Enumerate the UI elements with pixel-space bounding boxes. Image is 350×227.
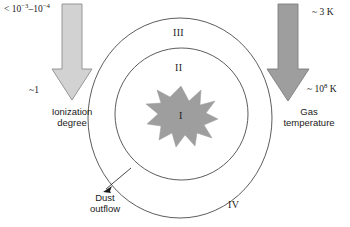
ionization-degree-top-value: < 10−3–10−4 xyxy=(4,4,50,15)
ionization-degree-arrow xyxy=(52,4,92,100)
gas-temperature-caption: Gas temperature xyxy=(269,107,349,129)
dust-outflow-caption: Dust outflow xyxy=(70,193,140,215)
ionization-degree-caption: Ionization degree xyxy=(33,107,111,129)
diagram-canvas: < 10−3–10−4 ~1 Ionization degree ~ 3 K ~… xyxy=(0,0,350,227)
zone-label-ii: II xyxy=(175,62,182,74)
zone-label-iii: III xyxy=(173,27,184,39)
gas-temperature-top-value: ~ 3 K xyxy=(312,7,334,18)
dust-outflow-leader-line xyxy=(106,168,131,189)
zone-label-i: I xyxy=(179,110,183,122)
gas-temperature-arrow xyxy=(267,4,309,101)
ionization-degree-bottom-value: ~1 xyxy=(29,85,39,96)
zone-label-iv: IV xyxy=(228,199,239,211)
gas-temperature-bottom-value: ~ 108 K xyxy=(307,84,337,95)
